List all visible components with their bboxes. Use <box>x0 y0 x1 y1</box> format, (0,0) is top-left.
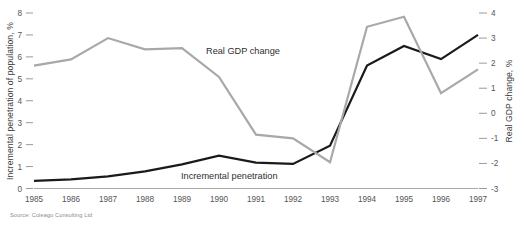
right-tick-label: 1 <box>491 84 496 93</box>
right-tick-label: 3 <box>491 34 496 43</box>
left-tick-label: 0 <box>17 185 22 194</box>
x-tick-label: 1996 <box>432 195 451 204</box>
left-tick-label: 7 <box>17 31 22 40</box>
right-axis-ticks: -3-2-101234 <box>479 9 499 194</box>
right-tick-label: 4 <box>491 9 496 18</box>
dual-axis-line-chart: 012345678 -3-2-101234 198519861987198819… <box>0 0 524 233</box>
x-tick-label: 1987 <box>99 195 118 204</box>
series-line-real-gdp-change <box>34 17 478 162</box>
chart-container: 012345678 -3-2-101234 198519861987198819… <box>0 0 524 233</box>
x-tick-label: 1985 <box>25 195 44 204</box>
source-note: Source: Coleago Consulting Ltd <box>10 212 92 218</box>
x-tick-label: 1990 <box>210 195 229 204</box>
left-axis-ticks: 012345678 <box>17 9 33 194</box>
x-tick-label: 1986 <box>62 195 81 204</box>
right-tick-label: 2 <box>491 59 496 68</box>
x-tick-label: 1989 <box>173 195 192 204</box>
left-axis-title: Incremental penetration of population, % <box>5 22 15 180</box>
right-tick-label: -3 <box>491 185 499 194</box>
left-tick-label: 3 <box>17 119 22 128</box>
series-annotation: Incremental penetration <box>181 171 278 181</box>
right-axis-title: Real GDP change, % <box>504 59 514 142</box>
left-tick-label: 1 <box>17 163 22 172</box>
x-axis-tick-labels: 1985198619871988198919901991199219931994… <box>25 195 488 204</box>
x-tick-label: 1988 <box>136 195 155 204</box>
series-lines <box>34 17 478 181</box>
left-tick-label: 6 <box>17 53 22 62</box>
x-tick-label: 1992 <box>284 195 303 204</box>
right-tick-label: -1 <box>491 134 499 143</box>
right-tick-label: -2 <box>491 159 499 168</box>
x-tick-label: 1995 <box>395 195 414 204</box>
x-tick-label: 1994 <box>358 195 377 204</box>
x-tick-label: 1997 <box>469 195 488 204</box>
series-line-incremental-penetration <box>34 35 478 181</box>
left-tick-label: 5 <box>17 75 22 84</box>
x-tick-label: 1991 <box>247 195 266 204</box>
left-tick-label: 4 <box>17 97 22 106</box>
series-annotation: Real GDP change <box>206 46 280 56</box>
left-tick-label: 2 <box>17 141 22 150</box>
right-tick-label: 0 <box>491 109 496 118</box>
x-tick-label: 1993 <box>321 195 340 204</box>
left-tick-label: 8 <box>17 9 22 18</box>
